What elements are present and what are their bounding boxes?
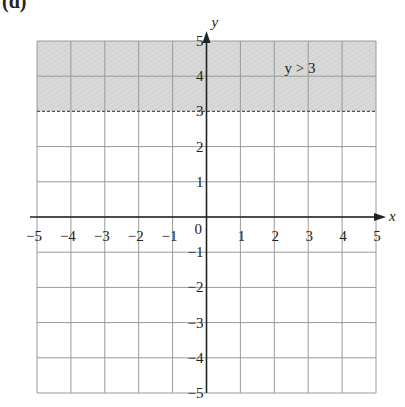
x-tick-label: −3 [94, 228, 110, 244]
y-tick-label: −2 [188, 279, 204, 295]
y-tick-label: 5 [196, 33, 204, 49]
y-tick-label: 1 [196, 174, 204, 190]
y-tick-label: −5 [188, 385, 204, 401]
x-tick-label: −2 [128, 228, 144, 244]
x-tick-label: −5 [26, 228, 42, 244]
y-tick-label: 4 [196, 68, 204, 84]
x-tick-label: 1 [238, 228, 246, 244]
x-tick-label: −4 [60, 228, 76, 244]
x-axis-arrow-icon [374, 213, 386, 221]
y-tick-label: 2 [196, 139, 204, 155]
x-tick-label: −1 [162, 228, 178, 244]
x-axis-label: x [388, 208, 396, 224]
coordinate-grid: xy−5−4−3−2−1012345−5−4−3−2−112345y > 3 [0, 0, 405, 407]
y-tick-label: −4 [188, 350, 204, 366]
y-tick-label: −3 [188, 315, 204, 331]
y-axis-arrow-icon [203, 31, 211, 43]
y-tick-label: −1 [188, 244, 204, 260]
inequality-label: y > 3 [284, 60, 315, 76]
x-tick-label: 5 [373, 228, 381, 244]
x-tick-label: 0 [195, 221, 203, 237]
x-tick-label: 3 [305, 228, 313, 244]
y-tick-label: 3 [196, 103, 204, 119]
y-axis-label: y [210, 14, 219, 30]
x-tick-label: 4 [339, 228, 347, 244]
x-tick-label: 2 [272, 228, 280, 244]
